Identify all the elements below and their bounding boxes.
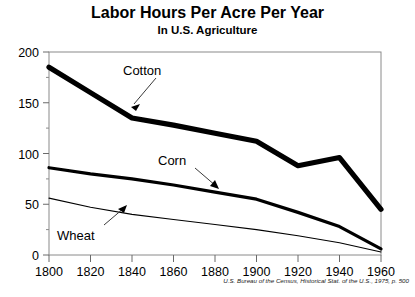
y-axis-ticks — [43, 52, 49, 255]
line-chart: 200 150 100 50 0 1800 1820 1840 1860 188… — [0, 0, 415, 297]
y-tick-label: 150 — [18, 97, 39, 111]
y-tick-label: 0 — [32, 249, 39, 263]
source-citation: U.S. Bureau of the Census, Historical St… — [0, 277, 409, 284]
y-tick-label: 200 — [18, 46, 39, 60]
series-label-cotton: Cotton — [123, 63, 161, 78]
series-label-corn: Corn — [158, 153, 186, 168]
chart-page: Labor Hours Per Acre Per Year In U.S. Ag… — [0, 0, 415, 297]
x-axis-ticks — [49, 255, 381, 262]
y-tick-label: 100 — [18, 148, 39, 162]
series-label-wheat: Wheat — [57, 228, 95, 243]
y-tick-label: 50 — [25, 198, 39, 212]
